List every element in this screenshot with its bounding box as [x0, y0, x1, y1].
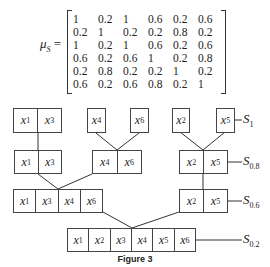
element-cell: x2: [173, 109, 189, 132]
level-label: S0.6: [243, 192, 260, 210]
element-cell: x1: [14, 109, 38, 132]
cluster-box: x1 x3 x4 x6: [13, 189, 103, 213]
element-cell: x3: [36, 190, 58, 212]
element-cell: x4: [93, 151, 118, 173]
element-cell: x1: [14, 190, 36, 212]
element-cell: x5: [217, 109, 234, 132]
element-cell: x1: [68, 229, 89, 251]
element-cell: x3: [38, 109, 61, 132]
element-cell: x4: [59, 190, 81, 212]
level-label: S1: [243, 111, 254, 129]
cluster-box: x4 x6: [92, 150, 142, 174]
element-cell: x6: [118, 151, 142, 173]
element-cell: x6: [175, 229, 195, 251]
element-cell: x2: [89, 229, 110, 251]
cluster-box: x1 x3: [14, 150, 62, 174]
element-cell: x5: [204, 151, 227, 173]
level-label: S0.2: [243, 231, 260, 249]
level-label: S0.8: [243, 153, 260, 171]
cluster-box: x1 x2 x3 x4 x5 x6: [67, 228, 196, 252]
cluster-box: x2 x5: [179, 189, 228, 213]
cluster-box: x4: [87, 108, 106, 133]
cluster-box: x6: [130, 108, 149, 133]
element-cell: x4: [132, 229, 153, 251]
element-cell: x3: [39, 151, 62, 173]
element-cell: x6: [81, 190, 102, 212]
element-cell: x2: [180, 190, 204, 212]
cluster-box: x1 x3: [13, 108, 62, 133]
cluster-box: x5: [216, 108, 235, 133]
element-cell: x6: [131, 109, 148, 132]
figure-caption: Figure 3: [0, 254, 270, 264]
element-cell: x5: [153, 229, 174, 251]
element-cell: x1: [15, 151, 39, 173]
cluster-box: x2: [172, 108, 190, 133]
element-cell: x3: [111, 229, 132, 251]
tree-connectors: [0, 0, 270, 267]
cluster-box: x2 x5: [179, 150, 228, 174]
element-cell: x5: [204, 190, 227, 212]
element-cell: x2: [180, 151, 204, 173]
element-cell: x4: [88, 109, 105, 132]
